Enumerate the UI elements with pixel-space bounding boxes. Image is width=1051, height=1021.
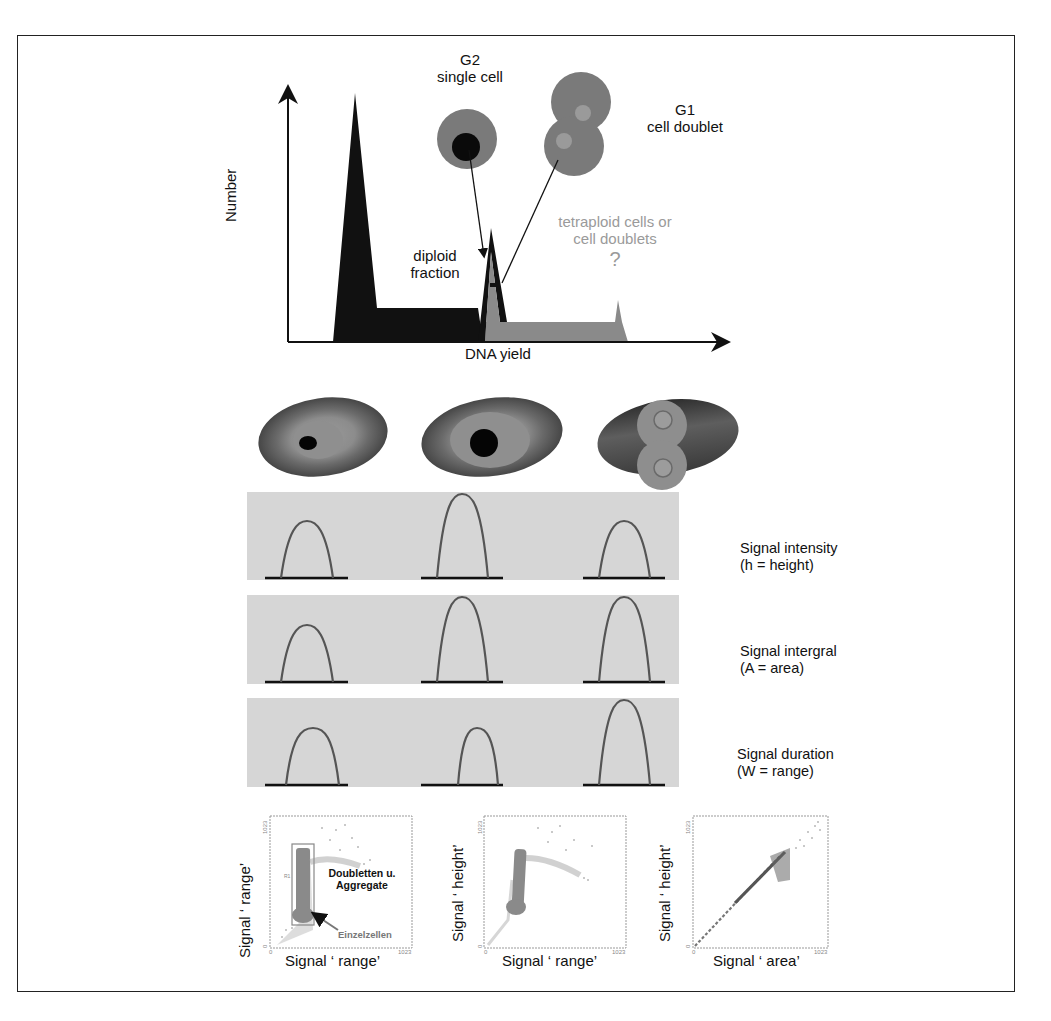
doublets-line1: Doubletten u. — [322, 867, 402, 879]
doublets-line2: Aggregate — [322, 879, 402, 891]
plot3-xlabel: Signal ‘ area’ — [713, 952, 800, 969]
signal-duration-line1: Signal duration — [737, 746, 834, 763]
plot2-tick-max-y: 1023 — [477, 821, 484, 834]
plot1-tick-max-y: 1023 — [262, 821, 269, 834]
plot1-xlabel: Signal ‘ range’ — [285, 952, 380, 969]
signal-intensity-line2: (h = height) — [740, 557, 838, 574]
plot1-tick-min-y: 0 — [262, 945, 269, 948]
plot2-ylabel: Signal ‘ height’ — [449, 844, 466, 942]
signal-integral-line1: Signal intergral — [740, 643, 837, 660]
plot3-tick-min-x: 0 — [692, 949, 695, 956]
plot3-tick-max-y: 1023 — [685, 821, 692, 834]
x-axis-label: DNA yield — [465, 345, 531, 362]
g1-label-line2: cell doublet — [630, 118, 740, 135]
plot3-tick-max-x: 1023 — [814, 949, 827, 956]
gate-label: R1 — [284, 874, 290, 880]
diploid-label: diploid fraction — [395, 247, 475, 282]
signal-duration-line2: (W = range) — [737, 763, 834, 780]
plot1-tick-max-x: 1023 — [398, 949, 411, 956]
tetraploid-label-line1: tetraploid cells or — [545, 213, 685, 230]
plot2-tick-min-x: 0 — [484, 949, 487, 956]
plot1-ylabel: Signal ‘ range’ — [236, 863, 253, 958]
tetraploid-label: tetraploid cells or cell doublets ? — [545, 213, 685, 271]
g2-label-line1: G2 — [417, 51, 523, 68]
tetraploid-label-line2: cell doublets — [545, 230, 685, 247]
cell-models-row — [253, 388, 743, 490]
question-mark: ? — [545, 248, 685, 271]
g2-label: G2 single cell — [417, 51, 523, 86]
diploid-label-line1: diploid — [395, 247, 475, 264]
figure-graphics — [0, 0, 1051, 1021]
signal-integral-line2: (A = area) — [740, 660, 837, 677]
signal-intensity-label: Signal intensity (h = height) — [740, 540, 838, 573]
signal-intensity-line1: Signal intensity — [740, 540, 838, 557]
signal-panel-integral — [247, 595, 679, 684]
scatter-plot-height-range — [484, 816, 626, 948]
plot2-xlabel: Signal ‘ range’ — [502, 952, 597, 969]
g1-label: G1 cell doublet — [630, 101, 740, 136]
signal-panel-duration — [247, 698, 679, 787]
signal-integral-label: Signal intergral (A = area) — [740, 643, 837, 676]
plot2-tick-min-y: 0 — [477, 945, 484, 948]
signal-duration-label: Signal duration (W = range) — [737, 746, 834, 779]
single-cells-annotation: Einzelzellen — [338, 930, 392, 941]
scatter-plot-height-area — [693, 816, 828, 948]
g2-label-line2: single cell — [417, 68, 523, 85]
plot3-ylabel: Signal ‘ height’ — [656, 844, 673, 942]
plot1-tick-min-x: 0 — [269, 949, 272, 956]
diploid-label-line2: fraction — [395, 264, 475, 281]
y-axis-label: Number — [222, 169, 239, 222]
plot2-tick-max-x: 1023 — [612, 949, 625, 956]
g1-label-line1: G1 — [630, 101, 740, 118]
signal-panel-intensity — [247, 492, 679, 580]
plot3-tick-min-y: 0 — [685, 945, 692, 948]
doublets-annotation: Doubletten u. Aggregate — [322, 867, 402, 891]
